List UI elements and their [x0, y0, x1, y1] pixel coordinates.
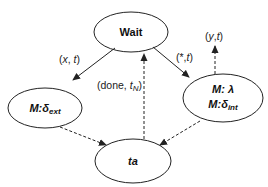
node-internal-transition: M: λ M:δint	[183, 74, 263, 122]
edge-wait-to-int: (*,t)	[153, 47, 193, 77]
edge-label-input: (x, t)	[59, 53, 80, 65]
node-ta-label: ta	[128, 155, 138, 167]
devs-state-diagram: Wait M:δext M: λ M:δint ta (x, t) (*,t) …	[0, 0, 268, 187]
edge-label-done: (done, tN)	[97, 79, 142, 93]
node-wait-label: Wait	[120, 26, 143, 38]
edge-ext-to-ta	[60, 127, 106, 145]
edge-wait-to-ext: (x, t)	[59, 48, 115, 80]
node-int-line2: M:δint	[208, 98, 238, 112]
node-int-line1: M: λ	[212, 83, 234, 95]
edge-label-any: (*,t)	[176, 51, 193, 63]
edge-label-output: (y,t)	[205, 30, 223, 42]
node-external-transition: M:δext	[8, 88, 82, 128]
node-time-advance: ta	[95, 139, 171, 183]
edge-ta-to-wait: (done, tN)	[97, 54, 144, 139]
node-wait: Wait	[94, 12, 168, 52]
edge-int-to-ta	[160, 121, 200, 145]
node-ext-label: M:δext	[29, 102, 60, 116]
edge-int-to-output: (y,t)	[205, 30, 223, 74]
